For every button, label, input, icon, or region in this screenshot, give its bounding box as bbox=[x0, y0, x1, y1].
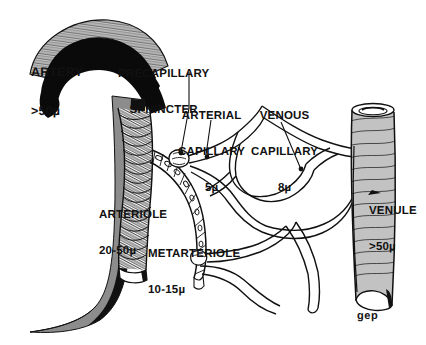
label-venous-capillary-line2: CAPILLARY bbox=[251, 147, 318, 159]
label-precapillary-line1: PRECAPILLARY bbox=[118, 69, 209, 81]
label-metarteriole-caliber: 10-15µ bbox=[148, 285, 240, 297]
label-arterial-capillary-line2: CAPILLARY bbox=[178, 147, 245, 159]
label-arterial-capillary: ARTERIAL CAPILLARY 5µ bbox=[178, 87, 245, 218]
label-arterial-capillary-caliber: 5µ bbox=[178, 183, 245, 195]
label-venous-capillary: VENOUS CAPILLARY 8µ bbox=[251, 87, 318, 218]
label-arterial-capillary-line1: ARTERIAL bbox=[178, 111, 245, 123]
label-venule-caliber: >50µ bbox=[369, 242, 417, 254]
label-artery-line2: >50µ bbox=[31, 105, 83, 118]
label-venous-capillary-caliber: 8µ bbox=[251, 183, 318, 195]
label-metarteriole-line1: METARTERIOLE bbox=[148, 249, 240, 261]
label-venule: VENULE >50µ bbox=[369, 182, 417, 278]
label-metarteriole: METARTERIOLE 10-15µ bbox=[148, 225, 240, 321]
microcirculation-figure: ARTERY >50µ PRECAPILLARY SPHINCTER ARTER… bbox=[0, 0, 426, 345]
label-venule-line1: VENULE bbox=[369, 206, 417, 218]
label-arteriole-line1: ARTERIOLE bbox=[99, 210, 167, 222]
label-venous-capillary-line1: VENOUS bbox=[251, 111, 318, 123]
artist-signature: gep bbox=[357, 311, 378, 322]
label-artery-line1: ARTERY bbox=[31, 66, 83, 79]
label-artery: ARTERY >50µ bbox=[31, 40, 83, 144]
